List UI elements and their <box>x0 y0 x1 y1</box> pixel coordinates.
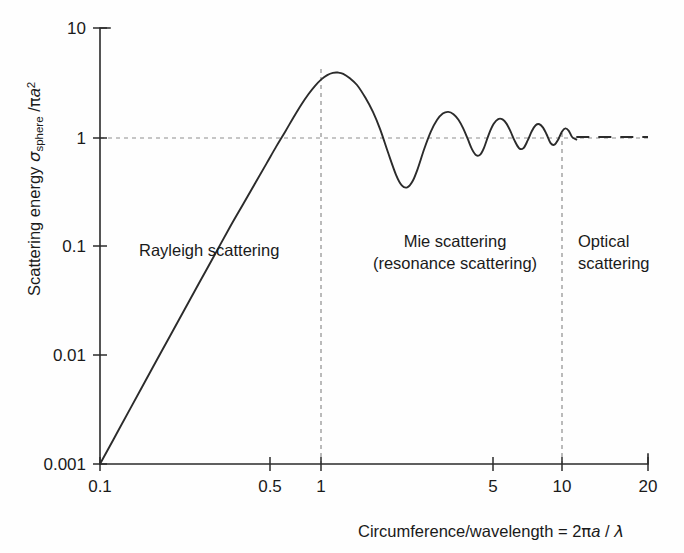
annotation-mie-scattering-line2: (resonance scattering) <box>373 254 537 272</box>
x-axis-title-lambda: λ <box>613 522 624 541</box>
x-axis-title-main: Circumference/wavelength <box>358 522 553 540</box>
y-axis-title-a: a <box>25 88 43 97</box>
x-tick-label-5: 5 <box>488 477 497 496</box>
y-axis-title-subscript: sphere <box>33 116 45 151</box>
x-axis-title-a: a <box>591 522 600 540</box>
y-tick-label-0.1: 0.1 <box>62 237 86 256</box>
y-axis-tick-labels: 0.001 0.01 0.1 1 10 <box>43 19 86 474</box>
x-axis-tick-labels: 0.1 0.5 1 5 10 20 <box>88 477 657 496</box>
y-tick-label-10: 10 <box>67 19 86 38</box>
y-axis-title: Scattering energy σsphere /πa2 <box>25 82 45 296</box>
x-tick-label-20: 20 <box>639 477 658 496</box>
scattering-efficiency-figure: 0.001 0.01 0.1 1 10 0.1 0.5 1 5 10 20 <box>0 0 684 553</box>
annotation-rayleigh-scattering: Rayleigh scattering <box>139 241 279 259</box>
svg-text:Scattering energy σsphere /πa2: Scattering energy σsphere /πa2 <box>25 82 45 296</box>
y-axis-title-main: Scattering energy <box>25 162 43 296</box>
region-annotations: Rayleigh scattering Mie scattering (reso… <box>139 232 650 272</box>
y-axis-title-divider: / <box>25 107 43 117</box>
svg-text:Circumference/wavelength = 2πa: Circumference/wavelength = 2πa / λ <box>358 522 624 541</box>
y-tick-label-0.001: 0.001 <box>43 455 86 474</box>
x-tick-label-1: 1 <box>316 477 325 496</box>
plot-svg: 0.001 0.01 0.1 1 10 0.1 0.5 1 5 10 20 <box>0 0 684 553</box>
x-tick-label-0.1: 0.1 <box>88 477 112 496</box>
annotation-optical-scattering-line2: scattering <box>578 254 650 272</box>
y-axis-title-sigma: σ <box>25 151 44 162</box>
y-tick-label-1: 1 <box>77 129 86 148</box>
x-axis-title-pi: π <box>581 522 591 541</box>
x-axis-title-slash: / <box>600 522 614 540</box>
x-axis-line <box>100 454 648 464</box>
y-axis-title-pi: π <box>25 97 44 107</box>
y-tick-label-0.01: 0.01 <box>53 346 86 365</box>
x-axis-title: Circumference/wavelength = 2πa / λ <box>358 522 624 541</box>
x-tick-label-10: 10 <box>553 477 572 496</box>
annotation-mie-scattering-line1: Mie scattering <box>404 232 507 250</box>
annotation-optical-scattering-line1: Optical <box>578 232 629 250</box>
y-axis-title-exponent: 2 <box>25 82 37 88</box>
x-tick-label-0.5: 0.5 <box>258 477 282 496</box>
x-axis-title-equals: = 2 <box>553 522 581 540</box>
